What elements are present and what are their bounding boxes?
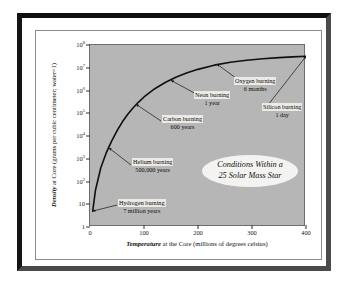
y-tick-mark bbox=[86, 113, 90, 114]
annotation-hydrogen-burning: Hydrogen burning 7 million years bbox=[118, 199, 166, 214]
annotation-silicon-line1: Silicon burning bbox=[262, 103, 302, 111]
x-tick-label: 400 bbox=[301, 230, 311, 236]
annotation-neon-line2: 1 year bbox=[194, 99, 230, 107]
annotation-neon-line1: Neon burning bbox=[194, 91, 230, 99]
y-axis-label-rest: at Core (grams per cubic centimeter; wat… bbox=[50, 63, 57, 187]
chart-title-line2: 25 Solar Mass Star bbox=[218, 171, 281, 182]
y-tick-mark bbox=[86, 90, 90, 91]
y-tick-mark bbox=[86, 181, 90, 182]
y-tick-label: 107 bbox=[76, 65, 85, 71]
annotation-carbon-burning: Carbon burning 600 years bbox=[162, 115, 203, 130]
y-tick-label: 103 bbox=[76, 156, 85, 162]
x-axis-label-rest: at the Core (millions of degrees celsius… bbox=[161, 240, 268, 247]
y-tick-mark bbox=[86, 67, 90, 68]
annotation-leader-hydrogen-burning bbox=[93, 205, 117, 211]
annotation-oxygen-line1: Oxygen burning bbox=[234, 77, 276, 85]
annotation-hydrogen-line2: 7 million years bbox=[118, 207, 166, 215]
x-tick-label: 0 bbox=[88, 230, 91, 236]
y-tick-label: 1 bbox=[82, 224, 85, 230]
y-tick-label: 105 bbox=[76, 110, 85, 116]
y-tick-label: 106 bbox=[76, 87, 85, 93]
plot-area: 110102103104105106107108 0100200300400 H… bbox=[89, 44, 305, 226]
chart-container: Density at Core (grams per cubic centime… bbox=[35, 30, 322, 260]
x-tick-label: 100 bbox=[139, 230, 149, 236]
annotation-leader-helium-burning bbox=[109, 148, 131, 165]
annotation-oxygen-line2: 6 months bbox=[234, 85, 276, 93]
annotation-helium-line2: 500,000 years bbox=[132, 166, 173, 174]
x-axis-label-emphasis: Temperature bbox=[126, 240, 161, 247]
y-tick-label: 108 bbox=[76, 42, 85, 48]
y-tick-label: 102 bbox=[76, 178, 85, 184]
annotation-oxygen-burning: Oxygen burning 6 months bbox=[234, 77, 276, 92]
chart-title-line1: Conditions Within a bbox=[217, 160, 283, 171]
x-axis-label: Temperature at the Core (millions of deg… bbox=[89, 240, 305, 247]
annotation-hydrogen-line1: Hydrogen burning bbox=[118, 199, 166, 207]
y-tick-mark bbox=[86, 204, 90, 205]
figure-inner-mat: Density at Core (grams per cubic centime… bbox=[27, 23, 321, 261]
chart-title-callout: Conditions Within a 25 Solar Mass Star bbox=[202, 155, 298, 187]
figure-frame: Density at Core (grams per cubic centime… bbox=[0, 0, 346, 284]
annotation-leader-carbon-burning bbox=[136, 104, 161, 121]
y-tick-label: 104 bbox=[76, 133, 85, 139]
y-tick-label: 10 bbox=[79, 201, 85, 207]
y-tick-mark bbox=[86, 136, 90, 137]
x-tick-label: 300 bbox=[247, 230, 257, 236]
annotation-carbon-line1: Carbon burning bbox=[162, 115, 203, 123]
figure-outer-border: Density at Core (grams per cubic centime… bbox=[17, 13, 331, 271]
y-tick-mark bbox=[86, 227, 90, 228]
annotation-silicon-burning: Silicon burning 1 day bbox=[262, 103, 302, 118]
annotation-helium-burning: Helium burning 500,000 years bbox=[132, 158, 173, 173]
y-axis-label-emphasis: Density bbox=[50, 187, 57, 208]
annotation-carbon-line2: 600 years bbox=[162, 123, 203, 131]
annotation-helium-line1: Helium burning bbox=[132, 158, 173, 166]
y-axis-label: Density at Core (grams per cubic centime… bbox=[48, 44, 59, 226]
y-tick-mark bbox=[86, 158, 90, 159]
x-tick-label: 200 bbox=[193, 230, 203, 236]
annotation-silicon-line2: 1 day bbox=[262, 111, 302, 119]
annotation-neon-burning: Neon burning 1 year bbox=[194, 91, 230, 106]
y-tick-mark bbox=[86, 45, 90, 46]
